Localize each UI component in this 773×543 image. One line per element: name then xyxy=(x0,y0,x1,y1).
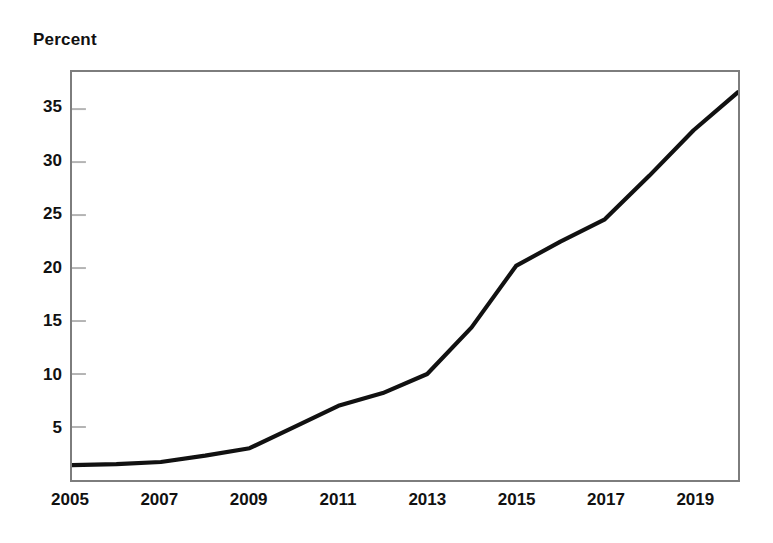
x-axis-tick-label: 2005 xyxy=(51,490,89,510)
line-chart-figure: Percent 5101520253035 200520072009201120… xyxy=(0,0,773,543)
x-axis-tick-label: 2015 xyxy=(498,490,536,510)
x-axis-tick-label: 2013 xyxy=(408,490,446,510)
x-axis-tick-labels: 20052007200920112013201520172019 xyxy=(0,0,773,543)
x-axis-tick-label: 2007 xyxy=(140,490,178,510)
x-axis-tick-label: 2011 xyxy=(320,490,357,510)
x-axis-tick-label: 2009 xyxy=(230,490,268,510)
x-axis-tick-label: 2017 xyxy=(587,490,625,510)
x-axis-tick-label: 2019 xyxy=(676,490,714,510)
